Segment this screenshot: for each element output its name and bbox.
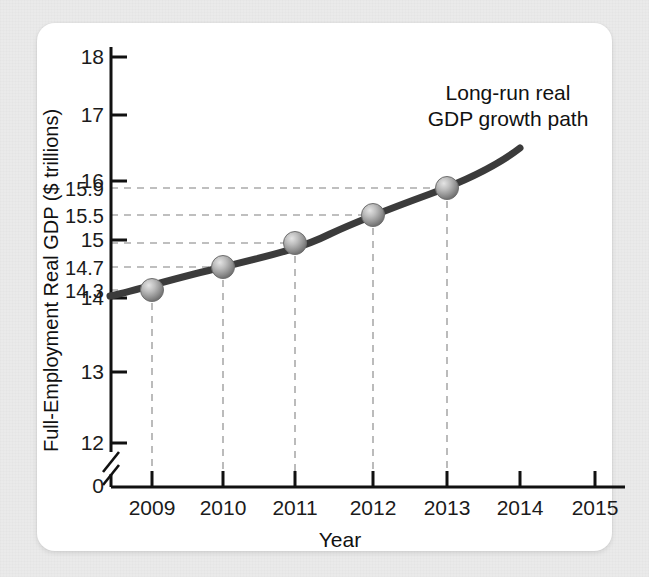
x-tick-label-2011: 2011 [250, 496, 340, 520]
y-value-label-14-3: 14.3 [34, 280, 104, 303]
y-tick-label-17: 17 [49, 103, 104, 127]
y-tick-label-12: 12 [49, 431, 104, 455]
x-axis-title: Year [280, 528, 400, 552]
y-tick-label-15: 15 [49, 228, 104, 252]
y-tick-label-13: 13 [49, 360, 104, 384]
curve-annotation-line-2: GDP growth path [398, 106, 618, 132]
figure-root: Full-Employment Real GDP ($ trillions) 1… [0, 0, 649, 577]
curve-annotation-line-1: Long-run real [398, 80, 618, 106]
y-tick-label-0: 0 [49, 474, 104, 498]
y-value-label-15-9: 15.9 [34, 178, 104, 201]
curve-annotation: Long-run real GDP growth path [398, 80, 618, 131]
y-tick-label-18: 18 [49, 45, 104, 69]
y-value-label-15-5: 15.5 [34, 205, 104, 228]
y-value-label-14-7: 14.7 [34, 257, 104, 280]
x-tick-label-2015: 2015 [550, 496, 640, 520]
